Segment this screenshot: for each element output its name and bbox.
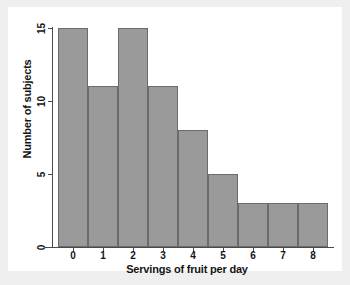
bar-4: [178, 130, 208, 247]
y-tick-label-5: 5: [36, 162, 47, 188]
figure-background: Number of subjects 0 5 10 15: [0, 0, 350, 285]
x-tick-label-3: 3: [148, 250, 178, 261]
y-axis-title: Number of subjects: [21, 24, 33, 194]
x-tick-label-0: 0: [58, 250, 88, 261]
x-axis-line: [44, 247, 334, 248]
x-tick-label-6: 6: [238, 250, 268, 261]
y-tick-label-15: 15: [36, 16, 47, 42]
x-tick-label-1: 1: [88, 250, 118, 261]
bar-6: [238, 203, 268, 247]
y-tick-label-10: 10: [36, 89, 47, 115]
bar-5: [208, 174, 238, 247]
x-tick-label-2: 2: [118, 250, 148, 261]
plot-panel: Number of subjects 0 5 10 15: [8, 7, 342, 271]
x-tick-label-4: 4: [178, 250, 208, 261]
x-tick-label-8: 8: [298, 250, 328, 261]
y-tick-mark-15: [48, 28, 52, 29]
bar-8: [298, 203, 328, 247]
x-tick-label-5: 5: [208, 250, 238, 261]
y-tick-mark-10: [48, 101, 52, 102]
x-axis-title: Servings of fruit per day: [42, 263, 332, 275]
bar-3: [148, 86, 178, 247]
bar-7: [268, 203, 298, 247]
x-tick-label-7: 7: [268, 250, 298, 261]
bar-1: [88, 86, 118, 247]
bar-0: [58, 28, 88, 247]
y-tick-mark-5: [48, 174, 52, 175]
bar-2: [118, 28, 148, 247]
y-axis-line: [52, 27, 53, 248]
